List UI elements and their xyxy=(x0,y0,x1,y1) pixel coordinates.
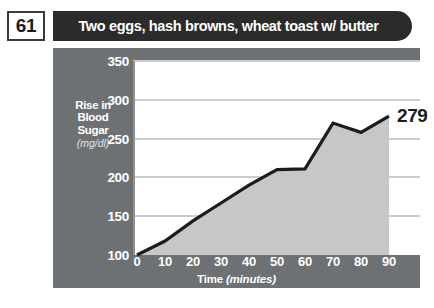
blood-sugar-curve xyxy=(133,61,420,255)
x-axis-title: Time (minutes) xyxy=(53,273,420,285)
plot-area xyxy=(133,61,420,255)
x-axis-tick-label: 70 xyxy=(326,254,340,269)
x-axis-tick-label: 30 xyxy=(214,254,228,269)
x-axis-strip: 0102030405060708090 Time (minutes) xyxy=(53,254,420,288)
chart-panel: Rise in Blood Sugar (mg/dl) 350300250200… xyxy=(53,48,420,288)
x-axis-tick-label: 0 xyxy=(134,254,141,269)
x-axis-title-unit: (minutes) xyxy=(226,273,276,285)
x-axis-tick-label: 10 xyxy=(158,254,172,269)
page-title: Two eggs, hash browns, wheat toast w/ bu… xyxy=(78,18,378,34)
x-axis-tick-label: 90 xyxy=(382,254,396,269)
x-axis-tick-label: 50 xyxy=(270,254,284,269)
title-bar: Two eggs, hash browns, wheat toast w/ bu… xyxy=(53,11,412,41)
y-axis-label-line2: Blood xyxy=(57,111,129,123)
plot-inner xyxy=(133,61,420,255)
x-axis-tick-label: 80 xyxy=(354,254,368,269)
x-axis-tick-label: 40 xyxy=(242,254,256,269)
y-axis-tick-label: 250 xyxy=(69,131,129,146)
end-value-callout: 279 xyxy=(397,105,428,127)
y-axis-tick-label: 150 xyxy=(69,209,129,224)
y-axis-tick-label: 300 xyxy=(69,92,129,107)
chart-page: 61 Two eggs, hash browns, wheat toast w/… xyxy=(0,0,434,308)
item-number: 61 xyxy=(16,15,37,37)
y-axis-tick-label: 200 xyxy=(69,170,129,185)
x-axis-tick-label: 20 xyxy=(186,254,200,269)
y-axis-tick-label: 350 xyxy=(69,54,129,69)
x-axis-title-main: Time xyxy=(197,273,223,285)
item-number-box: 61 xyxy=(7,11,45,41)
x-axis-tick-label: 60 xyxy=(298,254,312,269)
